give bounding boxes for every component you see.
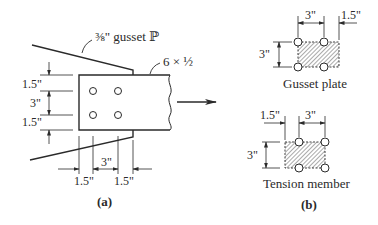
bolt-hole (295, 138, 303, 146)
tension-member-block-shear (262, 116, 329, 172)
bolted-connection-diagram: ⅜" gusset ℙ 6 × ½ 1.5" 3" 1.5" 1.5" 3" 1… (0, 0, 378, 225)
figure-b-label: (b) (301, 197, 317, 212)
gusset-dim-edge: 1.5" (341, 8, 361, 22)
bolt-hole (115, 88, 122, 95)
member-break-line (169, 75, 171, 130)
member-dim-edge: 1.5" (260, 108, 280, 122)
gusset-dim-vertical: 3" (259, 47, 270, 61)
gusset-plate-callout: ⅜" gusset ℙ (95, 29, 159, 44)
dim-edge-bottom: 1.5" (22, 115, 42, 129)
tension-member-outline (79, 75, 170, 130)
tension-member-caption: Tension member (263, 176, 350, 191)
vertical-dimensions (40, 62, 73, 144)
dim-pitch-horizontal: 3" (101, 155, 112, 169)
gusset-plate-top-edge (32, 45, 133, 75)
member-callout-leader (150, 63, 160, 74)
gusset-plate-bottom-edge (30, 130, 133, 160)
bolt-hole (294, 38, 302, 46)
member-dim-pitch: 3" (305, 108, 316, 122)
bolt-hole (90, 112, 97, 119)
dim-edge-top: 1.5" (22, 77, 42, 91)
member-size-callout: 6 × ½ (163, 54, 193, 69)
bolt-hole (320, 63, 328, 71)
member-dim-vertical: 3" (247, 148, 258, 162)
figure-a-label: (a) (97, 194, 112, 209)
dim-edge-right: 1.5" (114, 174, 134, 188)
hatched-shear-area (285, 142, 325, 168)
dim-pitch-vertical: 3" (30, 96, 41, 110)
bolt-hole (320, 38, 328, 46)
bolt-hole (294, 63, 302, 71)
bolt-hole (321, 138, 329, 146)
gusset-plate-block-shear (273, 16, 357, 71)
gusset-dim-pitch: 3" (305, 8, 316, 22)
gusset-plate-caption: Gusset plate (283, 76, 347, 91)
bolt-hole (321, 164, 329, 172)
gusset-callout-leader (82, 40, 92, 53)
bolt-hole (115, 112, 122, 119)
hatched-shear-area (298, 42, 339, 67)
dim-edge-left: 1.5" (74, 174, 94, 188)
bolt-hole (295, 164, 303, 172)
bolt-holes (90, 88, 122, 119)
bolt-hole (90, 88, 97, 95)
